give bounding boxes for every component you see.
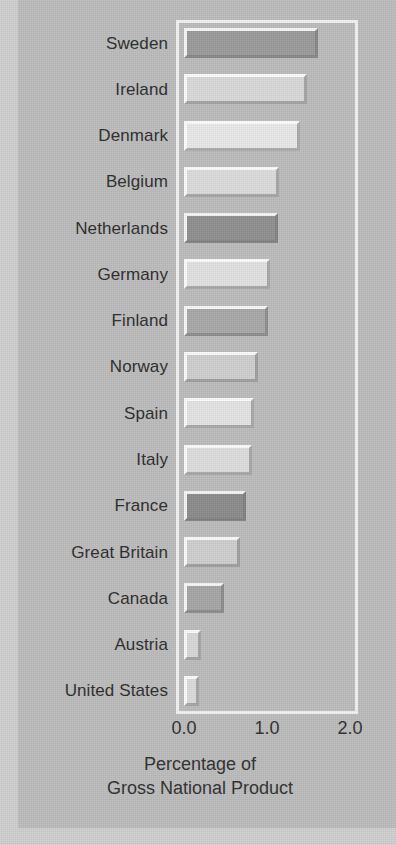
bar-category-label: Austria	[0, 636, 168, 653]
bar-container	[184, 28, 318, 58]
bar-row: Germany	[0, 251, 396, 297]
bar-container	[184, 213, 278, 243]
bar-row: Great Britain	[0, 529, 396, 575]
bar-row: France	[0, 483, 396, 529]
bar-category-label: Ireland	[0, 81, 168, 98]
bar-row: Austria	[0, 621, 396, 667]
bar-container	[184, 74, 307, 104]
bar	[184, 445, 252, 475]
bar-row: Finland	[0, 298, 396, 344]
bar	[184, 630, 201, 660]
x-axis-label: Percentage of Gross National Product	[30, 752, 370, 801]
bar-row: Spain	[0, 390, 396, 436]
bar-category-label: Finland	[0, 312, 168, 329]
bar-container	[184, 306, 268, 336]
bar-category-label: Denmark	[0, 127, 168, 144]
bar	[184, 213, 278, 243]
bar-container	[184, 630, 201, 660]
bar-row: Denmark	[0, 113, 396, 159]
bar-container	[184, 583, 224, 613]
bar-row: Italy	[0, 436, 396, 482]
bar	[184, 121, 300, 151]
bar-row: Belgium	[0, 159, 396, 205]
bar-row: Canada	[0, 575, 396, 621]
bar-category-label: Netherlands	[0, 220, 168, 237]
bar-container	[184, 121, 300, 151]
bar-category-label: Germany	[0, 266, 168, 283]
bar-container	[184, 537, 240, 567]
x-tick-label: 1.0	[254, 718, 279, 739]
bar-container	[184, 259, 270, 289]
bar	[184, 537, 240, 567]
bar-category-label: Norway	[0, 358, 168, 375]
bar	[184, 352, 258, 382]
chart-figure: SwedenIrelandDenmarkBelgiumNetherlandsGe…	[0, 0, 396, 845]
bar-category-label: Italy	[0, 451, 168, 468]
bar-container	[184, 491, 246, 521]
bar-chart: SwedenIrelandDenmarkBelgiumNetherlandsGe…	[0, 0, 396, 845]
bar-container	[184, 352, 258, 382]
bar	[184, 259, 270, 289]
bar-container	[184, 676, 199, 706]
x-axis-label-line-2: Gross National Product	[30, 776, 370, 800]
bar	[184, 28, 318, 58]
bar-row: Sweden	[0, 20, 396, 66]
bar-category-label: Canada	[0, 590, 168, 607]
x-axis-ticks: 0.01.02.0	[0, 718, 396, 744]
bar-category-label: Sweden	[0, 35, 168, 52]
bar-row: Ireland	[0, 66, 396, 112]
bar	[184, 676, 199, 706]
bar-container	[184, 167, 279, 197]
bar-row: Norway	[0, 344, 396, 390]
x-axis-label-line-1: Percentage of	[30, 752, 370, 776]
bar	[184, 306, 268, 336]
bar	[184, 167, 279, 197]
bar-container	[184, 398, 254, 428]
bar	[184, 398, 254, 428]
bar-category-label: France	[0, 497, 168, 514]
bar-rows: SwedenIrelandDenmarkBelgiumNetherlandsGe…	[0, 20, 396, 714]
bar	[184, 491, 246, 521]
bar	[184, 583, 224, 613]
bar-container	[184, 445, 252, 475]
bar-category-label: United States	[0, 682, 168, 699]
x-tick-label: 2.0	[337, 718, 362, 739]
bar	[184, 74, 307, 104]
x-tick-label: 0.0	[171, 718, 196, 739]
bar-row: United States	[0, 668, 396, 714]
bar-category-label: Great Britain	[0, 544, 168, 561]
bar-category-label: Belgium	[0, 173, 168, 190]
bar-category-label: Spain	[0, 405, 168, 422]
bar-row: Netherlands	[0, 205, 396, 251]
